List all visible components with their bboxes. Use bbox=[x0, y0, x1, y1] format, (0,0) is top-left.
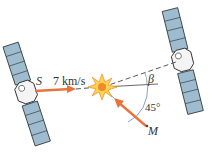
label-velocity: 7 km/s bbox=[53, 75, 85, 87]
label-m: M bbox=[148, 125, 158, 137]
diagram-canvas bbox=[0, 0, 214, 155]
satellite-s bbox=[1, 42, 52, 147]
path-right-dashed bbox=[103, 62, 176, 87]
satellite-right bbox=[160, 7, 205, 115]
label-45: 45° bbox=[145, 101, 160, 113]
label-s: S bbox=[36, 75, 42, 87]
label-beta: β bbox=[148, 73, 154, 85]
angle-beta-arc bbox=[145, 73, 147, 84]
collision-burst-icon bbox=[88, 74, 117, 100]
